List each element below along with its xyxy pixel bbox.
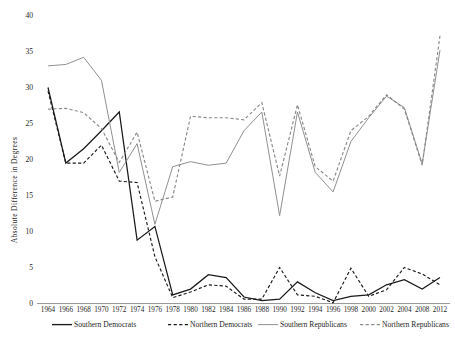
- x-tick-label: 2008: [415, 306, 430, 314]
- x-tick-label: 1978: [166, 306, 181, 314]
- x-tick-label: 1988: [255, 306, 270, 314]
- x-tick-label: 1982: [201, 306, 216, 314]
- x-tick-label: 1966: [59, 306, 74, 314]
- x-tick-label: 1994: [308, 306, 323, 314]
- y-tick-label: 25: [25, 119, 33, 128]
- x-tick-label: 1970: [94, 306, 109, 314]
- y-tick-label: 5: [29, 263, 33, 272]
- series-line-southern-republicans: [48, 50, 440, 224]
- x-tick-label: 1980: [183, 306, 198, 314]
- line-chart: Absolute Difference in Degrees 051015202…: [0, 0, 455, 346]
- x-tick-label: 1984: [219, 306, 234, 314]
- x-tick-label: 1974: [130, 306, 145, 314]
- x-tick-label: 2002: [379, 306, 394, 314]
- y-tick-label: 15: [25, 191, 33, 200]
- legend-label-northern-democrats: Northern Democrats: [190, 320, 252, 329]
- x-tick-label: 1998: [344, 306, 359, 314]
- x-tick-label: 1972: [112, 306, 127, 314]
- y-axis-title-group: Absolute Difference in Degrees: [10, 137, 19, 244]
- x-tick-label: 1968: [76, 306, 91, 314]
- y-tick-label: 10: [25, 227, 33, 236]
- series-line-northern-republicans: [48, 36, 440, 202]
- chart-legend: Southern DemocratsNorthern DemocratsSout…: [52, 320, 449, 329]
- x-tick-label: 1986: [237, 306, 252, 314]
- legend-label-southern-democrats: Southern Democrats: [74, 320, 136, 329]
- legend-label-northern-republicans: Northern Republicans: [382, 320, 449, 329]
- series-line-northern-democrats: [48, 91, 440, 303]
- x-tick-label: 2004: [397, 306, 412, 314]
- x-tick-label: 1990: [272, 306, 287, 314]
- x-axis-tick-labels: 1964196619681970197219741976197819801982…: [41, 306, 448, 314]
- x-tick-label: 2012: [433, 306, 448, 314]
- y-tick-label: 20: [25, 155, 33, 164]
- y-tick-label: 35: [25, 47, 33, 56]
- x-tick-label: 1992: [290, 306, 305, 314]
- x-tick-label: 1976: [148, 306, 163, 314]
- x-tick-label: 1996: [326, 306, 341, 314]
- y-axis-title: Absolute Difference in Degrees: [10, 137, 19, 244]
- x-tick-label: 1964: [41, 306, 56, 314]
- x-tick-label: 2000: [362, 306, 377, 314]
- y-axis-tick-labels: 0510152025303540: [25, 11, 33, 308]
- y-tick-label: 30: [25, 83, 33, 92]
- series-lines: [48, 36, 440, 303]
- y-tick-label: 40: [25, 11, 33, 20]
- chart-canvas: Absolute Difference in Degrees 051015202…: [0, 0, 455, 346]
- legend-label-southern-republicans: Southern Republicans: [280, 320, 347, 329]
- y-tick-label: 0: [29, 299, 33, 308]
